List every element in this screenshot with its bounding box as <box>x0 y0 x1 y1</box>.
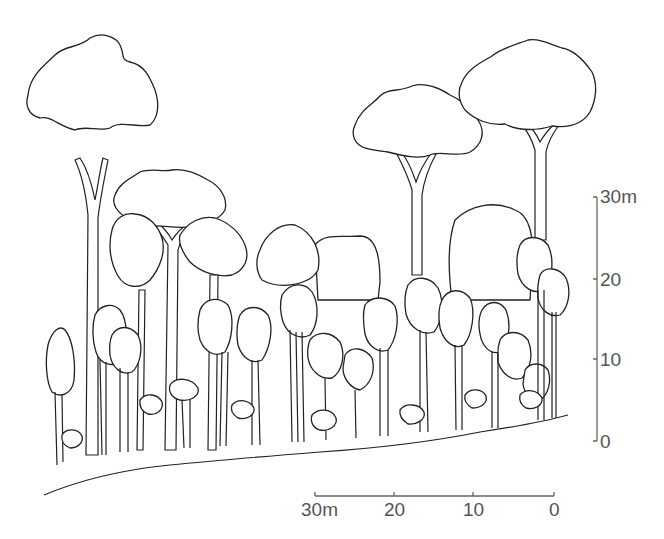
forest-drawing <box>0 0 664 539</box>
horizontal-scale-label-0: 0 <box>549 500 560 519</box>
horizontal-scale-label-10: 10 <box>463 500 484 519</box>
vertical-scale-bar <box>593 197 597 441</box>
ground-line <box>44 415 568 495</box>
forest-profile-diagram: 30m 20 10 0 30m 20 10 0 <box>0 0 664 539</box>
horizontal-scale-label-30: 30m <box>301 500 338 519</box>
horizontal-scale-bar <box>315 492 554 496</box>
shrubs <box>62 379 542 448</box>
vertical-scale-label-20: 20 <box>600 270 621 289</box>
vertical-scale-label-10: 10 <box>600 350 621 369</box>
vertical-scale-label-30: 30m <box>600 187 637 206</box>
horizontal-scale-label-20: 20 <box>384 500 405 519</box>
vertical-scale-label-0: 0 <box>600 432 611 451</box>
